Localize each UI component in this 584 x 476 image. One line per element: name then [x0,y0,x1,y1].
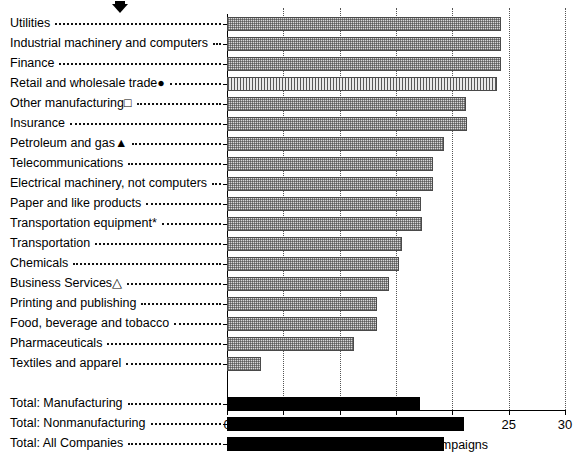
leader-dots [162,223,221,225]
bar [227,337,354,351]
leader-dots [55,23,221,25]
category-label: Transportation [10,236,90,251]
bar [227,77,497,91]
bar-row: Printing and publishing [0,294,584,314]
category-label: Paper and like products [10,196,141,211]
category-label: Electrical machinery, not computers [10,176,207,191]
leader-dots [107,343,221,345]
category-label: Business Services△ [10,276,122,291]
bar [227,397,420,411]
x-tick [452,410,453,415]
leader-dots [141,303,221,305]
bar-row: Retail and wholesale trade● [0,74,584,94]
x-axis-title: Percent to Federated Campaigns [227,438,565,452]
x-tick-label: 25 [489,417,529,432]
bar [227,317,377,331]
leader-dots [137,103,222,105]
bar [227,217,422,231]
category-label: Telecommunications [10,156,123,171]
category-label: Petroleum and gas▲ [10,136,127,151]
bar-row: Textiles and apparel [0,354,584,374]
leader-dots [73,263,221,265]
bar [227,197,421,211]
leader-dots [132,143,221,145]
bar-chart: UtilitiesIndustrial machinery and comput… [0,0,584,476]
category-label: Total: Manufacturing [10,396,123,411]
bar [227,297,377,311]
leader-dots [212,183,221,185]
bar [227,97,466,111]
leader-dots [126,363,221,365]
leader-dots [127,283,221,285]
category-label: Printing and publishing [10,296,136,311]
x-tick-label: 10 [320,417,360,432]
bar [227,157,433,171]
leader-dots [128,403,221,405]
bar [227,257,399,271]
bar [227,137,444,151]
category-label: Pharmaceuticals [10,336,102,351]
bar-row: Transportation [0,234,584,254]
category-label: Food, beverage and tobacco [10,316,169,331]
bar-row: Other manufacturing□ [0,94,584,114]
leader-dots [70,123,221,125]
x-tick [396,410,397,415]
bar [227,57,501,71]
category-label: Finance [10,56,54,71]
leader-dots [59,63,221,65]
category-label: Utilities [10,16,50,31]
bar-row: Paper and like products [0,194,584,214]
leader-dots [95,243,221,245]
category-label: Total: All Companies [10,436,123,451]
bar-row: Telecommunications [0,154,584,174]
bar [227,117,467,131]
leader-dots [213,43,221,45]
bar-row: Petroleum and gas▲ [0,134,584,154]
bar [227,277,389,291]
leader-dots [170,83,221,85]
x-tick-label: 0 [207,417,247,432]
bar [227,37,501,51]
x-tick-label: 20 [432,417,472,432]
leader-dots [128,443,221,445]
category-label: Insurance [10,116,65,131]
category-label: Industrial machinery and computers [10,36,208,51]
category-label: Other manufacturing□ [10,96,132,111]
bar [227,177,433,191]
bar-row: Pharmaceuticals [0,334,584,354]
category-label: Chemicals [10,256,68,271]
x-tick-label: 5 [263,417,303,432]
category-label: Transportation equipment* [10,216,157,231]
bar-row: Electrical machinery, not computers [0,174,584,194]
bar [227,237,402,251]
bar-row: Industrial machinery and computers [0,34,584,54]
category-label: Textiles and apparel [10,356,121,371]
bar [227,17,501,31]
x-tick [283,410,284,415]
x-tick-label: 30 [545,417,584,432]
leader-dots [128,163,221,165]
x-tick [565,410,566,415]
bar-row: Transportation equipment* [0,214,584,234]
x-tick-label: 15 [376,417,416,432]
bar [227,357,261,371]
category-label: Total: Nonmanufacturing [10,416,146,431]
x-tick [340,410,341,415]
bar-row: Business Services△ [0,274,584,294]
leader-dots [174,323,221,325]
down-arrow-marker-icon [112,4,128,13]
x-tick [227,410,228,415]
bar-row: Total: Manufacturing [0,394,584,414]
bar-row: Food, beverage and tobacco [0,314,584,334]
category-label: Retail and wholesale trade● [10,76,165,91]
leader-dots [146,203,221,205]
x-tick [509,410,510,415]
